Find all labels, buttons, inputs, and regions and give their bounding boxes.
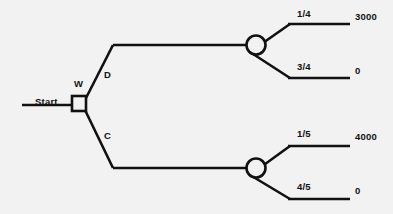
terminal-value-c-outcome-2: 0 (355, 186, 360, 196)
chance-node-d-circle (247, 36, 266, 55)
terminal-value-d-outcome-2: 0 (355, 66, 360, 76)
probability-label-c-outcome-2: 4/5 (297, 182, 311, 192)
branch-label-c: C (104, 131, 111, 141)
chance-node-c-circle (247, 159, 266, 178)
edge-chance-d-outcome-2 (250, 52, 290, 78)
decision-node-label: W (74, 79, 83, 89)
decision-tree-figure: Start W D C 1/4 3/4 1/5 4/5 3000 0 4000 … (0, 0, 393, 214)
terminal-value-d-outcome-1: 3000 (355, 12, 377, 22)
probability-label-d-outcome-2: 3/4 (297, 62, 311, 72)
terminal-value-c-outcome-1: 4000 (355, 132, 377, 142)
decision-node-square (72, 96, 86, 111)
start-label: Start (35, 97, 58, 107)
probability-label-c-outcome-1: 1/5 (297, 129, 311, 139)
probability-label-d-outcome-1: 1/4 (297, 9, 311, 19)
decision-tree-graphic (0, 0, 393, 214)
branch-label-d: D (104, 70, 111, 80)
